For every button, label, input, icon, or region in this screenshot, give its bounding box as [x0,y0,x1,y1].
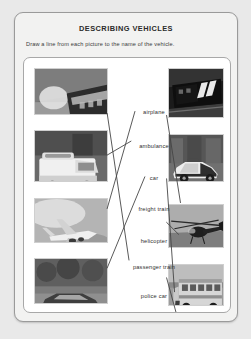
picture-passenger-train-photo[interactable] [34,68,108,115]
answer-line-airplane-photo-to-airplane [107,111,135,208]
word-label-car[interactable]: car [150,175,159,181]
picture-freight-train-photo[interactable] [168,68,224,118]
answer-line-passenger-train-photo-to-passenger-train [107,113,129,260]
picture-airplane-photo[interactable] [34,198,108,243]
answer-line-ambulance-photo-to-ambulance [107,141,131,155]
word-label-ambulance[interactable]: ambulance [139,143,169,149]
worksheet-frame: DESCRIBING VEHICLES Draw a line from eac… [14,12,238,322]
picture-police-car-photo[interactable] [168,134,224,182]
picture-ambulance-photo[interactable] [34,130,108,182]
answer-line-car-photo-to-car [107,177,145,268]
word-label-airplane[interactable]: airplane [143,109,165,115]
activity-panel: airplaneambulancecarfreight trainhelicop… [23,57,231,313]
picture-school-bus-photo[interactable] [168,264,224,306]
picture-helicopter-photo[interactable] [168,204,224,248]
word-label-passenger-train[interactable]: passenger train [133,264,175,270]
picture-car-photo[interactable] [34,258,108,304]
page-title: DESCRIBING VEHICLES [15,24,237,33]
word-label-freight-train[interactable]: freight train [138,206,169,212]
word-label-helicopter[interactable]: helicopter [141,238,168,244]
word-label-police-car[interactable]: police car [141,293,167,299]
instruction-text: Draw a line from each picture to the nam… [26,41,174,47]
